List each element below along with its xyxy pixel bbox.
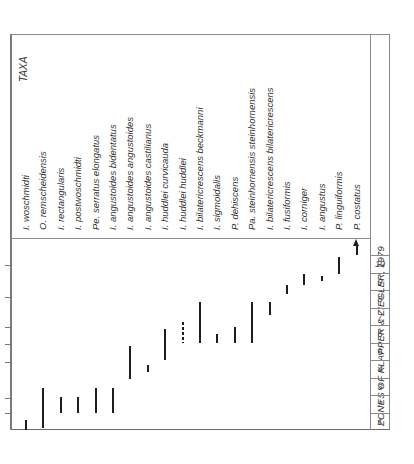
- zone-cell-1: 1: [370, 413, 390, 431]
- zone-cell-8: 8: [370, 290, 390, 308]
- taxon-label: I. rectangularis: [55, 168, 66, 230]
- range-bar: [182, 322, 184, 343]
- range-bar: [321, 276, 323, 281]
- taxon-label: P. dehiscens: [229, 177, 240, 230]
- taxon-label: Pe. serratus elongatus: [90, 135, 101, 230]
- range-bar: [338, 257, 340, 275]
- range-bar: [234, 327, 236, 343]
- taxon-label: I. angustus: [316, 184, 327, 230]
- taxon-label: I. corniger: [298, 188, 309, 230]
- range-bar: [251, 302, 253, 342]
- taxa-label-divider: [10, 238, 370, 239]
- range-bar: [269, 302, 271, 314]
- arrow-up-icon: [353, 239, 359, 246]
- taxon-label: I. fusiformis: [281, 181, 292, 230]
- axis-tick: [5, 327, 11, 328]
- taxon-label: Pa. steinhornensis steinhornensis: [246, 88, 257, 230]
- range-bar: [60, 397, 62, 413]
- zone-cell-6: 6: [370, 325, 390, 343]
- zone-cell-3: 3: [370, 378, 390, 396]
- range-bar: [77, 397, 79, 413]
- axis-tick: [5, 398, 11, 399]
- range-bar: [286, 285, 288, 294]
- range-bar: [164, 329, 166, 361]
- left-axis: [10, 34, 12, 430]
- zone-cell-9: 9: [370, 273, 390, 291]
- axis-tick: [5, 344, 11, 345]
- taxon-label: I. angustoides castilianus: [142, 124, 153, 230]
- taxon-label: I. huddlei curvicauda: [159, 143, 170, 230]
- axis-tick: [5, 265, 11, 266]
- taxa-header: TAXA: [18, 57, 29, 82]
- zone-cell-7: 7: [370, 308, 390, 326]
- taxon-label: I. bilatericrescens beckmanni: [194, 108, 205, 231]
- zone-cell-2: 2: [370, 395, 390, 413]
- axis-tick: [5, 413, 11, 414]
- range-bar: [112, 388, 114, 413]
- range-bar: [25, 420, 27, 431]
- chart-frame: [10, 34, 390, 430]
- taxon-label: I. sigmoidalis: [211, 175, 222, 230]
- taxon-label: I. huddlei huddlei: [177, 158, 188, 230]
- axis-tick: [5, 297, 11, 298]
- range-bar: [147, 365, 149, 372]
- range-bar: [129, 346, 131, 379]
- taxon-label: P. costatus: [351, 184, 362, 230]
- taxon-label: I. woschmidti: [20, 175, 31, 230]
- zone-cell-4: 4: [370, 360, 390, 378]
- axis-tick: [5, 362, 11, 363]
- taxon-label: O. remscheidensis: [37, 151, 48, 230]
- zone-cell-10: 10: [370, 255, 390, 273]
- range-bar: [42, 388, 44, 428]
- range-bar: [199, 302, 201, 342]
- taxon-label: I. angustoides angustoides: [124, 117, 135, 230]
- taxon-label: I. bilatericrescens bilatericrescens: [264, 87, 275, 230]
- zone-cell-5: 5: [370, 343, 390, 361]
- range-bar: [95, 388, 97, 413]
- taxon-label: I. angustoides bidentatus: [107, 124, 118, 230]
- range-bar: [216, 334, 218, 343]
- taxon-label: I. postwoschmidti: [72, 157, 83, 230]
- range-bar: [303, 274, 305, 285]
- taxon-label: P. linguiformis: [333, 172, 344, 230]
